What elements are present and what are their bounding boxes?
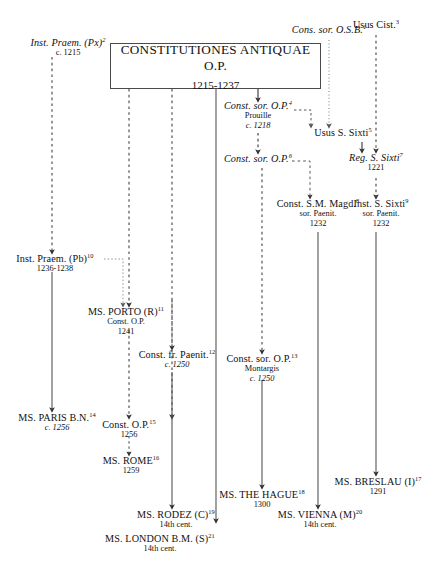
node-line2: 1291 — [334, 487, 421, 496]
node-title: Inst. S. Sixti9 — [353, 198, 408, 209]
node-title: MS. ROME16 — [103, 455, 160, 466]
node-line2: c. 1215 — [30, 48, 105, 57]
footnote-marker: 19 — [208, 508, 215, 515]
node-ms-rome: MS. ROME16 1259 — [103, 455, 160, 476]
root-date: 1215-1237 — [192, 79, 240, 91]
footnote-marker: 2 — [102, 36, 105, 43]
node-const-sor-op-prouille: Const. sor. O.P.4 Prouille c. 1218 — [224, 100, 292, 130]
edge-const-sor-op6-to-smmagd — [292, 161, 310, 197]
node-title: Const. S.M. Magd.8 — [277, 198, 360, 209]
node-title: Const. sor. O.P.6 — [224, 153, 292, 164]
footnote-marker: 6 — [289, 152, 292, 159]
node-ms-rodez: MS. RODEZ (C)19 14th cent. — [137, 509, 215, 530]
footnote-marker: 11 — [158, 305, 164, 312]
node-line2: c. 1256 — [18, 423, 96, 432]
footnote-marker: 21 — [208, 532, 215, 539]
node-line2: Const. O.P. — [88, 317, 164, 326]
node-title: Reg. S. Sixti7 — [349, 152, 403, 163]
edge-pb-to-porto — [104, 259, 123, 305]
node-line2: Montargis — [226, 364, 297, 373]
footnote-marker: 4 — [289, 99, 292, 106]
root-title: CONSTITUTIONES ANTIQUAE O.P. — [111, 42, 320, 74]
node-line2: sor. Paenit. — [277, 209, 360, 218]
node-line2: 14th cent. — [137, 520, 215, 529]
footnote-marker: 15 — [149, 418, 156, 425]
node-inst-praem-pb: Inst. Praem. (Pb)10 1236-1238 — [16, 253, 93, 274]
node-line3: 1241 — [88, 327, 164, 336]
footnote-marker: 16 — [153, 454, 160, 461]
node-ms-vienna: MS. VIENNA (M)20 14th cent. — [278, 509, 363, 530]
node-title: Usus Cist.3 — [353, 19, 399, 30]
node-line2: 1256 — [102, 430, 156, 439]
node-line2: 14th cent. — [278, 520, 363, 529]
node-ms-breslau: MS. BRESLAU (I)17 1291 — [334, 476, 421, 497]
footnote-marker: 5 — [368, 126, 371, 133]
node-ms-porto: MS. PORTO (R)11 Const. O.P. 1241 — [88, 306, 164, 336]
node-title: Const. O.P.15 — [102, 419, 156, 430]
node-ms-london-bm: MS. LONDON B.M. (S)21 14th cent. — [105, 533, 215, 554]
node-line2: Prouille — [224, 111, 292, 120]
node-title: Const. fr. Paenit.12 — [139, 349, 216, 360]
footnote-marker: 18 — [298, 488, 305, 495]
footnote-marker: 3 — [396, 18, 399, 25]
node-title: Const. sor. O.P.4 — [224, 100, 292, 111]
node-ms-the-hague: MS. THE HAGUE18 1300 — [219, 489, 305, 510]
node-usus-cist: Usus Cist.3 — [353, 19, 399, 30]
node-const-sor-op-6: Const. sor. O.P.6 — [224, 153, 292, 164]
node-inst-s-sixti: Inst. S. Sixti9 sor. Paenit. 1232 — [353, 198, 408, 228]
edge-prouille-to-usus-sixti — [294, 110, 311, 126]
node-title: MS. PARIS B.N.14 — [18, 412, 96, 423]
node-title: Usus S. Sixti5 — [314, 127, 372, 138]
node-ms-paris-bn: MS. PARIS B.N.14 c. 1256 — [18, 412, 96, 433]
node-title: Inst. Praem. (Px)2 — [30, 37, 105, 48]
node-const-sm-magd: Const. S.M. Magd.8 sor. Paenit. 1232 — [277, 198, 360, 228]
node-title: MS. RODEZ (C)19 — [137, 509, 215, 520]
node-reg-s-sixti: Reg. S. Sixti7 1221 — [349, 152, 403, 173]
node-line3: c. 1250 — [226, 374, 297, 383]
node-line2: 1259 — [103, 466, 160, 475]
node-inst-praem-px: Inst. Praem. (Px)2 c. 1215 — [30, 37, 105, 58]
node-usus-s-sixti: Usus S. Sixti5 — [314, 127, 372, 138]
footnote-marker: 10 — [87, 252, 94, 259]
node-line2: 14th cent. — [105, 544, 215, 553]
footnote-marker: 12 — [209, 348, 216, 355]
footnote-marker: 13 — [291, 352, 298, 359]
footnote-marker: 17 — [415, 475, 422, 482]
node-line2: 1236-1238 — [16, 264, 93, 273]
footnote-marker: 9 — [405, 197, 408, 204]
node-line3: 1232 — [353, 219, 408, 228]
node-const-sor-op-montargis: Const. sor. O.P.13 Montargis c. 1250 — [226, 353, 297, 383]
node-line2: 1221 — [349, 163, 403, 172]
node-title: MS. PORTO (R)11 — [88, 306, 164, 317]
node-line3: 1232 — [277, 219, 360, 228]
root-node-constitutiones-antiquae: CONSTITUTIONES ANTIQUAE O.P. 1215-1237 — [110, 43, 321, 89]
node-line3: c. 1218 — [224, 121, 292, 130]
node-title: Inst. Praem. (Pb)10 — [16, 253, 93, 264]
footnote-marker: 14 — [89, 411, 96, 418]
node-line2: c. 1250 — [139, 360, 216, 369]
node-const-fr-paenit: Const. fr. Paenit.12 c. 1250 — [139, 349, 216, 370]
node-title: MS. THE HAGUE18 — [219, 489, 305, 500]
node-const-op-1256: Const. O.P.15 1256 — [102, 419, 156, 440]
node-title: Const. sor. O.P.13 — [226, 353, 297, 364]
footnote-marker: 20 — [356, 508, 363, 515]
stemma-diagram: CONSTITUTIONES ANTIQUAE O.P. 1215-1237 I… — [0, 0, 439, 571]
node-title: MS. LONDON B.M. (S)21 — [105, 533, 215, 544]
node-title: MS. BRESLAU (I)17 — [334, 476, 421, 487]
footnote-marker: 7 — [400, 151, 403, 158]
node-line2: sor. Paenit. — [353, 209, 408, 218]
node-title: MS. VIENNA (M)20 — [278, 509, 363, 520]
